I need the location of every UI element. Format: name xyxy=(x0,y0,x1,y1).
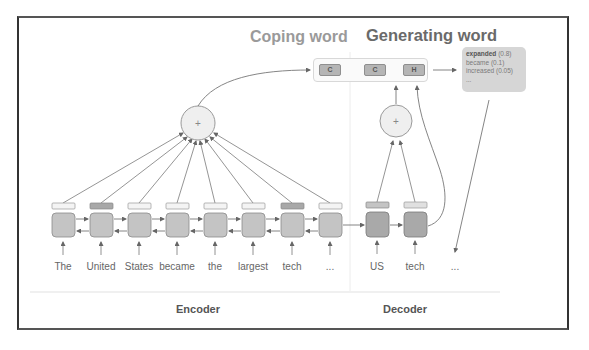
next-token-arrow xyxy=(455,100,489,252)
generating-word-title: Generating word xyxy=(366,26,497,45)
recurrent-arrows xyxy=(76,219,402,231)
attention-arrows xyxy=(63,133,330,203)
prob-row: expanded (0.8) xyxy=(466,50,522,59)
encoder-cells xyxy=(52,203,342,237)
prob-row: increased (0.05) xyxy=(466,67,522,76)
output-chip-copy-2: C xyxy=(364,64,386,76)
coping-word-title: Coping word xyxy=(250,28,348,46)
plus-icon: + xyxy=(195,118,201,129)
prob-row: became (0.1) xyxy=(466,59,522,68)
decoder-label: Decoder xyxy=(355,303,455,315)
copy-arrow xyxy=(198,70,310,106)
output-chip-generate: H xyxy=(403,64,425,76)
decoder-token: ... xyxy=(430,261,480,272)
probability-box: expanded (0.8) became (0.1) increased (0… xyxy=(462,47,526,92)
encoder-label: Encoder xyxy=(148,303,248,315)
input-arrows xyxy=(63,241,415,255)
output-chips-box: C C H xyxy=(313,58,428,82)
plus-icon: + xyxy=(393,116,399,127)
prob-row: ... xyxy=(466,76,522,85)
encoder-token: ... xyxy=(305,261,355,272)
output-chip-copy-1: C xyxy=(319,64,341,76)
decoder-cells xyxy=(366,202,427,237)
